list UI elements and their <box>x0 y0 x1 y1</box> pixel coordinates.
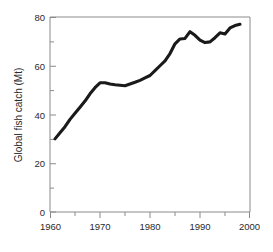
y-axis-title: Global fish catch (Mt) <box>13 68 24 162</box>
chart-screenshot: 80 60 40 20 0 1960 1970 1980 1990 2000 G… <box>0 0 273 252</box>
plot-frame <box>50 17 250 212</box>
x-tick-label-2000: 2000 <box>239 221 260 232</box>
y-tick-label-40: 40 <box>34 110 45 121</box>
y-tick-label-20: 20 <box>34 158 45 169</box>
x-tick-label-1970: 1970 <box>89 221 110 232</box>
x-axis-tick-labels: 1960 1970 1980 1990 2000 <box>40 221 260 232</box>
x-tick-label-1960: 1960 <box>40 221 61 232</box>
y-tick-label-60: 60 <box>34 61 45 72</box>
data-series-line <box>55 24 240 139</box>
y-tick-label-80: 80 <box>34 12 45 23</box>
global-fish-catch-line-chart: 80 60 40 20 0 1960 1970 1980 1990 2000 G… <box>0 0 273 252</box>
y-axis-major-ticks <box>50 18 56 213</box>
y-axis-tick-labels: 80 60 40 20 0 <box>34 12 45 218</box>
y-tick-label-0: 0 <box>40 207 45 218</box>
x-axis-major-ticks <box>51 212 250 218</box>
x-tick-label-1980: 1980 <box>139 221 160 232</box>
frame-border <box>50 17 250 212</box>
x-tick-label-1990: 1990 <box>189 221 210 232</box>
